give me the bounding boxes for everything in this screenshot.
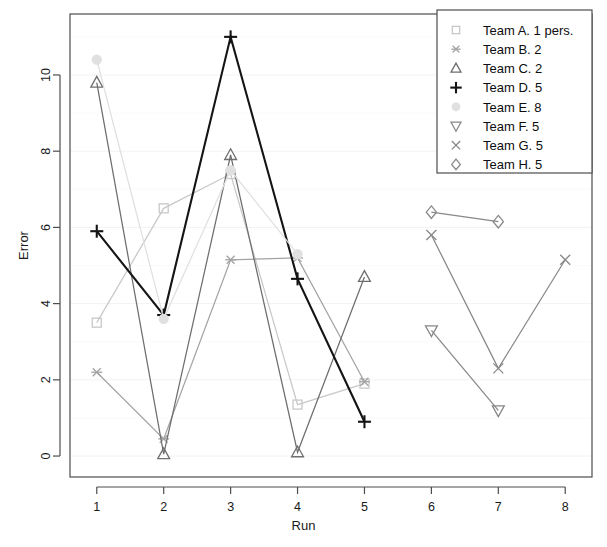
y-axis: 0246810 bbox=[40, 68, 61, 460]
x-tick-label: 3 bbox=[227, 500, 234, 514]
scatter-line-plot: 12345678 0246810 Team A. 1 pers.Team B. … bbox=[0, 0, 607, 547]
data-point-circle bbox=[293, 250, 302, 259]
x-tick-label: 5 bbox=[361, 500, 368, 514]
x-tick-label: 8 bbox=[562, 500, 569, 514]
x-tick-label: 1 bbox=[93, 500, 100, 514]
data-point-circle bbox=[159, 314, 168, 323]
y-tick-label: 0 bbox=[40, 453, 54, 460]
x-tick-label: 2 bbox=[160, 500, 167, 514]
legend-label: Team G. 5 bbox=[483, 138, 543, 153]
legend-label: Team H. 5 bbox=[483, 157, 542, 172]
series-6 bbox=[425, 326, 504, 417]
data-point-plus bbox=[358, 415, 371, 428]
legend-label: Team C. 2 bbox=[483, 61, 542, 76]
series-8 bbox=[426, 206, 503, 228]
x-tick-label: 4 bbox=[294, 500, 301, 514]
data-point-triangle-up bbox=[225, 149, 237, 160]
x-tick-label: 7 bbox=[495, 500, 502, 514]
legend: Team A. 1 pers.Team B. 2Team C. 2Team D.… bbox=[437, 10, 592, 173]
series-line bbox=[97, 174, 365, 405]
series-line bbox=[97, 37, 365, 422]
series-line bbox=[97, 258, 365, 439]
x-tick-label: 6 bbox=[428, 500, 435, 514]
data-point-asterisk bbox=[91, 368, 102, 376]
x-axis-title: Run bbox=[0, 518, 607, 533]
series-line bbox=[431, 235, 565, 368]
data-point-asterisk bbox=[225, 256, 236, 264]
data-point-plus bbox=[291, 272, 304, 285]
data-point-triangle-down bbox=[492, 406, 504, 417]
series-line bbox=[431, 212, 498, 222]
y-axis-title: Error bbox=[16, 196, 31, 296]
data-point-cross bbox=[560, 255, 570, 265]
legend-label: Team E. 8 bbox=[483, 100, 542, 115]
data-point-cross bbox=[426, 230, 436, 240]
legend-label: Team B. 2 bbox=[483, 42, 542, 57]
data-point-cross bbox=[493, 363, 503, 373]
y-tick-label: 6 bbox=[40, 224, 54, 231]
y-tick-label: 8 bbox=[40, 148, 54, 155]
legend-label: Team A. 1 pers. bbox=[483, 23, 573, 38]
series-line bbox=[431, 330, 498, 410]
y-tick-label: 4 bbox=[40, 300, 54, 307]
legend-label: Team D. 5 bbox=[483, 80, 542, 95]
series-line bbox=[97, 83, 365, 455]
y-tick-label: 10 bbox=[40, 68, 54, 82]
y-tick-label: 2 bbox=[40, 376, 54, 383]
data-point-circle bbox=[452, 103, 459, 110]
data-point-circle bbox=[226, 166, 235, 175]
series-7 bbox=[426, 230, 570, 373]
legend-label: Team F. 5 bbox=[483, 119, 539, 134]
data-point-circle bbox=[92, 55, 101, 64]
data-point-plus bbox=[224, 30, 237, 43]
x-axis: 12345678 bbox=[93, 487, 568, 514]
series-3 bbox=[91, 76, 371, 458]
data-point-triangle-up bbox=[359, 271, 371, 282]
chart-root: 12345678 0246810 Team A. 1 pers.Team B. … bbox=[0, 0, 607, 547]
